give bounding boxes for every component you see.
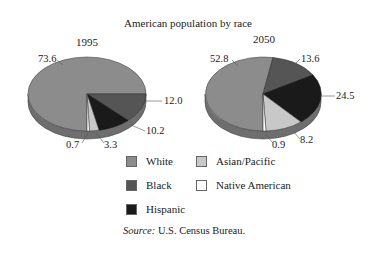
label-2050-black: 13.6 [301, 53, 319, 64]
legend-label-white: White [146, 155, 173, 167]
label-2050-native: 0.9 [272, 139, 285, 150]
pie-1995 [28, 57, 162, 143]
label-1995-asian: 3.3 [104, 139, 117, 150]
source-note: Source: U.S. Census Bureau. [123, 225, 245, 236]
label-1995-hispanic: 10.2 [146, 125, 164, 136]
pie-2050 [205, 57, 335, 143]
legend-swatch-native [196, 180, 207, 191]
source-prefix: Source: [123, 225, 155, 236]
legend-label-asian: Asian/Pacific [216, 155, 275, 167]
legend-swatch-hispanic [126, 204, 137, 215]
legend-label-native: Native American [216, 179, 291, 191]
source-text: U.S. Census Bureau. [155, 225, 245, 236]
label-2050-asian: 8.2 [300, 134, 313, 145]
pie-charts [0, 0, 376, 253]
legend-label-black: Black [146, 179, 172, 191]
legend-swatch-asian [196, 156, 207, 167]
label-1995-white: 73.6 [38, 53, 56, 64]
legend-swatch-black [126, 180, 137, 191]
label-2050-hispanic: 24.5 [336, 90, 354, 101]
label-1995-black: 12.0 [164, 95, 182, 106]
legend-swatch-white [126, 156, 137, 167]
label-1995-native: 0.7 [66, 139, 79, 150]
legend-label-hispanic: Hispanic [146, 203, 185, 215]
label-2050-white: 52.8 [210, 53, 228, 64]
